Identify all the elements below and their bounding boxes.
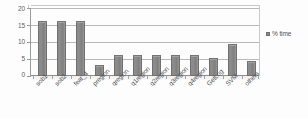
x-label-q2region: q2region — [148, 65, 170, 87]
x-label-q4region: q4region — [186, 65, 208, 87]
x-label-qregion: qregion — [110, 67, 130, 87]
x-label-q1region: q1region — [129, 65, 151, 87]
bar-chart: 20 15 10 5 0 — [0, 0, 308, 118]
x-label-svm: SVM — [224, 72, 239, 87]
x-label-sob1: sob1 — [34, 72, 48, 86]
legend: % time — [266, 30, 291, 37]
x-label-others: others — [243, 70, 260, 87]
x-label-q3region: q3region — [167, 65, 189, 87]
x-label-sob2: sob2 — [53, 72, 67, 86]
x-axis-category-labels: sob1 sob2 feat_4 pregion qregion q1regio… — [0, 0, 308, 118]
legend-label: % time — [272, 30, 291, 37]
x-label-feat-4: feat_4 — [72, 70, 89, 87]
x-label-getlog: GetLog — [205, 68, 224, 87]
x-label-pregion: pregion — [91, 67, 111, 87]
square-swatch-icon — [266, 32, 270, 36]
